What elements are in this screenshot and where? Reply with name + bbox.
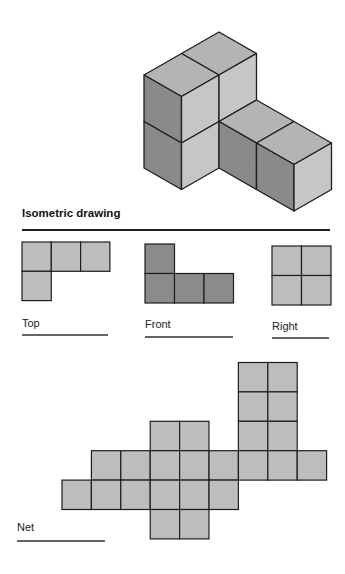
front-view-label: Front: [145, 318, 171, 330]
net-cell: [180, 510, 209, 539]
view-cell: [51, 242, 80, 271]
net-cell: [180, 421, 209, 450]
view-cell: [302, 276, 332, 306]
net-cell: [150, 451, 179, 480]
view-cell: [145, 244, 175, 274]
view-cell: [302, 246, 332, 276]
net-cell: [150, 510, 179, 539]
net-cell: [121, 480, 150, 509]
net-cell: [268, 363, 297, 392]
view-cell: [22, 271, 51, 300]
view-cell: [81, 242, 110, 271]
net-cell: [91, 480, 120, 509]
net-cell: [209, 480, 238, 509]
view-cell: [204, 274, 234, 304]
top-view-label: Top: [22, 317, 40, 329]
net-cell: [268, 392, 297, 421]
net-cell: [62, 480, 91, 509]
net-cell: [150, 421, 179, 450]
net-cell: [121, 451, 150, 480]
drawing-canvas: [0, 0, 345, 574]
net-cell: [180, 480, 209, 509]
view-cell: [145, 274, 175, 304]
net-label: Net: [17, 521, 34, 533]
net-cell: [268, 421, 297, 450]
isometric-title: Isometric drawing: [22, 207, 120, 219]
net-cell: [238, 451, 267, 480]
view-cell: [22, 242, 51, 271]
net-cell: [238, 421, 267, 450]
net-cell: [180, 451, 209, 480]
right-view-label: Right: [272, 320, 298, 332]
view-cell: [175, 274, 205, 304]
net-cell: [297, 451, 326, 480]
net-cell: [268, 451, 297, 480]
net-cell: [209, 451, 238, 480]
view-cell: [272, 246, 302, 276]
net-cell: [238, 363, 267, 392]
view-cell: [272, 276, 302, 306]
net-cell: [150, 480, 179, 509]
net-cell: [238, 392, 267, 421]
net-cell: [91, 451, 120, 480]
